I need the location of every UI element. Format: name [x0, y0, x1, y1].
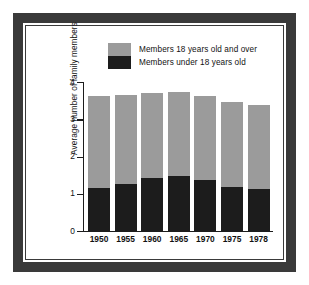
bar-segment-under-18 — [168, 176, 190, 231]
bar-segment-under-18 — [194, 180, 216, 231]
x-axis-tick-label: 1970 — [190, 234, 220, 244]
y-axis-tick-label: 4 — [70, 77, 75, 87]
bar-stack — [221, 102, 243, 231]
bar-stack — [88, 96, 110, 231]
bar-segment-over-18 — [141, 93, 163, 178]
y-axis-tick-label: 1 — [70, 188, 75, 198]
y-axis-tick-label: 0 — [70, 226, 75, 236]
y-axis-tick: 0 — [77, 231, 84, 232]
x-axis-tick-label: 1955 — [111, 234, 141, 244]
bar-stack — [248, 105, 270, 231]
bars-layer: 1950195519601965197019751978 — [83, 26, 273, 231]
bar-segment-under-18 — [248, 189, 270, 231]
y-axis-tick-label: 2 — [70, 151, 75, 161]
bar-segment-over-18 — [248, 105, 270, 189]
x-axis-tick-label: 1975 — [217, 234, 247, 244]
bar-segment-over-18 — [194, 96, 216, 180]
x-axis-tick-label: 1950 — [84, 234, 114, 244]
figure-outer-frame: Members 18 years old and over Members un… — [13, 13, 296, 272]
bar-stack — [141, 93, 163, 231]
y-axis-tick-label: 3 — [70, 114, 75, 124]
bar-segment-over-18 — [115, 95, 137, 184]
bar-segment-under-18 — [141, 178, 163, 231]
figure-frame-gap: Members 18 years old and over Members un… — [23, 23, 286, 262]
bar-segment-under-18 — [221, 187, 243, 231]
bar-stack — [194, 96, 216, 231]
figure-frame-inner-border: Members 18 years old and over Members un… — [25, 25, 284, 260]
bar-segment-over-18 — [168, 92, 190, 176]
y-axis-title: Average number of family members — [70, 14, 79, 164]
bar-stack — [115, 95, 137, 231]
x-axis-tick-label: 1960 — [137, 234, 167, 244]
bar-segment-over-18 — [88, 96, 110, 188]
x-axis-tick-label: 1965 — [164, 234, 194, 244]
chart-plot-area: Members 18 years old and over Members un… — [26, 26, 283, 259]
bar-segment-under-18 — [115, 184, 137, 231]
bar-segment-over-18 — [221, 102, 243, 187]
bar-segment-under-18 — [88, 188, 110, 231]
x-axis-tick-label: 1978 — [244, 234, 274, 244]
bar-stack — [168, 92, 190, 231]
